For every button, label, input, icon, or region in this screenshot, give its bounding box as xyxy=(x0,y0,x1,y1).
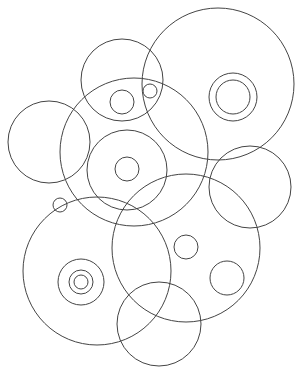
circle-lower-left-ring-inner xyxy=(74,275,88,289)
circle-top-right-ring-inner xyxy=(216,80,250,114)
circle-top-center-tiny xyxy=(143,84,157,98)
circles-group xyxy=(8,8,294,366)
circle-right-mid xyxy=(209,146,291,228)
circle-diagram xyxy=(0,0,299,373)
circle-top-right-large xyxy=(142,8,294,160)
circle-top-center-inner xyxy=(110,90,134,114)
circle-middle-inner-small xyxy=(115,157,139,181)
circle-lower-right-small-b xyxy=(210,261,244,295)
circle-lower-right-large xyxy=(112,174,260,322)
circle-lower-left-ring-outer xyxy=(58,259,104,305)
circle-bottom xyxy=(117,282,201,366)
circle-lower-right-small-a xyxy=(174,235,198,259)
circle-lower-left-large xyxy=(23,197,171,345)
circle-middle-inner xyxy=(87,130,167,210)
circle-left xyxy=(8,101,90,183)
circle-lower-left-tiny xyxy=(53,198,67,212)
circle-lower-left-ring-mid xyxy=(69,270,93,294)
